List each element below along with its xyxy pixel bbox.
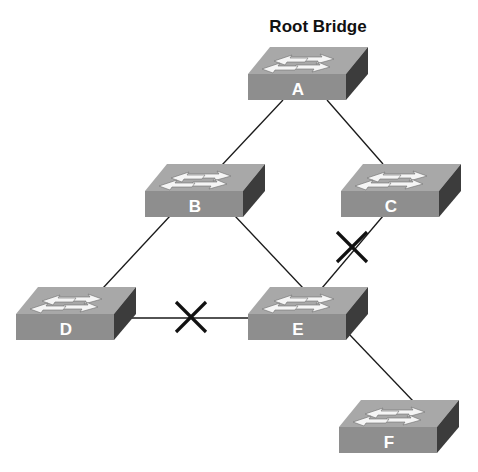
switch-label: E [292,320,303,339]
blocked-port-c-e [337,232,367,262]
switch-label: C [385,197,397,216]
switch-a[interactable]: A [248,47,368,100]
switch-b[interactable]: B [145,164,265,217]
link-a-b [222,100,283,165]
link-e-f [349,334,413,401]
blocked-port-d-e [176,302,206,332]
switch-label: F [384,433,394,452]
link-b-e [235,216,303,288]
link-c-e [322,216,383,288]
switch-label: D [60,320,72,339]
switch-e[interactable]: E [248,287,368,340]
switch-f[interactable]: F [339,400,459,453]
switch-label: B [189,197,201,216]
link-b-d [103,216,170,288]
link-a-c [327,100,383,164]
switch-d[interactable]: D [16,287,136,340]
spanning-tree-diagram: A B C D E F [0,0,478,472]
switch-c[interactable]: C [341,164,461,217]
switch-label: A [292,80,304,99]
links [103,100,413,401]
